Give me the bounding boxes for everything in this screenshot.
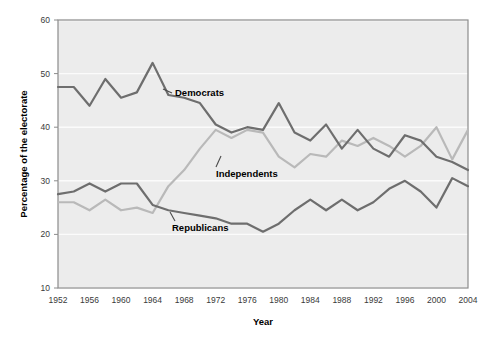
x-tick-label-2004: 2004	[459, 295, 478, 305]
line-chart: 102030405060 195219561960196419681972197…	[0, 0, 498, 337]
x-tick-label-1980: 1980	[269, 295, 288, 305]
y-axis-title: Percentage of the electorate	[18, 90, 29, 217]
x-tick-label-2000: 2000	[427, 295, 446, 305]
y-tick-label-50: 50	[41, 69, 51, 79]
independents-label: Independents	[216, 168, 278, 179]
y-tick-label-60: 60	[41, 15, 51, 25]
x-tick-label-1976: 1976	[238, 295, 257, 305]
x-tick-label-1992: 1992	[364, 295, 383, 305]
x-tick-label-1984: 1984	[301, 295, 320, 305]
x-tick-label-1956: 1956	[80, 295, 99, 305]
x-tick-label-1952: 1952	[49, 295, 68, 305]
y-tick-label-20: 20	[41, 229, 51, 239]
x-tick-label-1996: 1996	[395, 295, 414, 305]
y-tick-label-30: 30	[41, 176, 51, 186]
chart-page: 102030405060 195219561960196419681972197…	[0, 0, 498, 337]
x-tick-label-1972: 1972	[206, 295, 225, 305]
republicans-label: Republicans	[172, 222, 229, 233]
plot-area-background	[58, 20, 468, 288]
y-tick-label-10: 10	[41, 283, 51, 293]
x-tick-label-1968: 1968	[175, 295, 194, 305]
democrats-label: Democrats	[175, 87, 224, 98]
x-tick-label-1988: 1988	[332, 295, 351, 305]
y-tick-label-40: 40	[41, 122, 51, 132]
x-axis-title: Year	[253, 316, 273, 327]
x-tick-label-1964: 1964	[143, 295, 162, 305]
x-tick-label-1960: 1960	[112, 295, 131, 305]
